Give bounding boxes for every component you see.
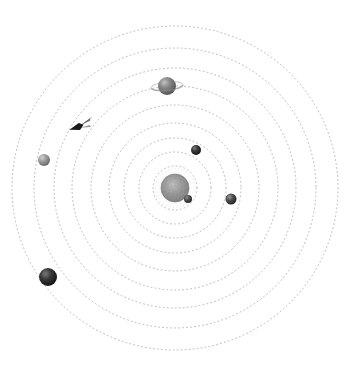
planet-upper-dark	[191, 145, 201, 155]
planet-right-dark	[226, 194, 237, 205]
planet-left-gray-highlight	[40, 156, 43, 159]
planets-group	[38, 77, 237, 286]
planet-ringed-highlight	[162, 80, 167, 85]
planet-inner-small-highlight	[186, 197, 188, 199]
planet-ringed-body	[158, 77, 176, 95]
planet-lowerleft-dark-highlight	[43, 271, 48, 276]
planet-upper-dark-body	[191, 145, 201, 155]
solar-system-diagram	[0, 0, 351, 366]
planet-left-gray-body	[38, 154, 50, 166]
solar-system-canvas	[0, 0, 351, 366]
planet-inner-small-body	[184, 195, 192, 203]
planet-upper-dark-highlight	[193, 147, 196, 150]
planet-lowerleft-dark	[39, 268, 57, 286]
planet-left-gray	[38, 154, 50, 166]
planet-inner-small	[184, 195, 192, 203]
planet-lowerleft-dark-body	[39, 268, 57, 286]
planet-ringed	[151, 77, 184, 95]
planet-right-dark-body	[226, 194, 237, 205]
sun	[154, 167, 196, 209]
planet-right-dark-highlight	[228, 196, 231, 199]
